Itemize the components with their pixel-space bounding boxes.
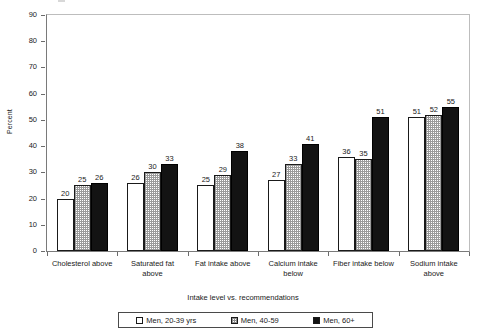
legend-item-2[interactable]: Men, 60+: [313, 316, 354, 325]
bar[interactable]: [338, 157, 355, 251]
y-axis-title: Percent: [6, 92, 13, 152]
x-tick-mark: [399, 252, 400, 256]
x-category-line: Sodium intake: [393, 259, 475, 269]
bar-chart: Percent 0102030405060708090 202526263033…: [0, 0, 486, 336]
x-category-label: Sodium intakeabove: [393, 259, 475, 279]
y-tick-mark: [41, 251, 45, 252]
legend-label-2: Men, 60+: [323, 316, 354, 325]
bar-value-label: 51: [376, 107, 384, 116]
bar[interactable]: [268, 180, 285, 251]
bar[interactable]: [57, 199, 74, 251]
legend-swatch-icon-men-60-plus: [313, 317, 320, 324]
y-tick-mark: [41, 15, 45, 16]
bar[interactable]: [285, 164, 302, 251]
legend-label-0: Men, 20-39 yrs: [146, 316, 196, 325]
y-tick-mark: [41, 41, 45, 42]
legend-swatch-icon-men-40-59: [231, 317, 238, 324]
legend-swatch-icon-men-20-39: [136, 317, 143, 324]
bar[interactable]: [74, 185, 91, 251]
bar-group: 515255: [399, 15, 469, 251]
bar[interactable]: [231, 151, 248, 251]
bar-value-label: 30: [148, 162, 156, 171]
bar[interactable]: [372, 117, 389, 251]
x-category-line: below: [252, 269, 334, 279]
bar-value-label: 41: [306, 134, 314, 143]
legend: Men, 20-39 yrs Men, 40-59 Men, 60+: [118, 312, 373, 328]
x-category-line: above: [393, 269, 475, 279]
legend-label-1: Men, 40-59: [241, 316, 279, 325]
y-tick-mark: [41, 120, 45, 121]
x-category-line: above: [111, 269, 193, 279]
y-tick-label: 40: [29, 141, 37, 150]
legend-item-1[interactable]: Men, 40-59: [231, 316, 279, 325]
bar-value-label: 27: [272, 170, 280, 179]
y-tick-mark: [41, 146, 45, 147]
bar[interactable]: [408, 117, 425, 251]
bar-value-label: 55: [447, 97, 455, 106]
y-tick-label: 30: [29, 167, 37, 176]
y-tick-mark: [41, 225, 45, 226]
bar-group: 263033: [117, 15, 187, 251]
bar[interactable]: [442, 107, 459, 251]
y-tick-label: 20: [29, 194, 37, 203]
bar-value-label: 26: [95, 173, 103, 182]
x-tick-mark: [188, 252, 189, 256]
y-tick-mark: [41, 199, 45, 200]
y-tick-label: 50: [29, 115, 37, 124]
bar[interactable]: [127, 183, 144, 251]
y-tick-label: 10: [29, 220, 37, 229]
y-tick-mark: [41, 94, 45, 95]
bar-value-label: 52: [430, 105, 438, 114]
bar-group: 273341: [258, 15, 328, 251]
bar-groups: 202526263033252938273341363551515255: [47, 15, 469, 251]
bar-value-label: 35: [359, 149, 367, 158]
y-tick-label: 80: [29, 36, 37, 45]
bar-value-label: 51: [413, 107, 421, 116]
bar-value-label: 36: [342, 147, 350, 156]
x-tick-mark: [328, 252, 329, 256]
bar[interactable]: [91, 183, 108, 251]
bar-value-label: 33: [289, 154, 297, 163]
bar-value-label: 26: [131, 173, 139, 182]
bar-group: 363551: [328, 15, 398, 251]
y-tick-label: 0: [33, 246, 37, 255]
x-tick-mark: [117, 252, 118, 256]
top-crop-artifact: [58, 0, 65, 2]
y-tick-mark: [41, 67, 45, 68]
y-tick-label: 70: [29, 62, 37, 71]
bar-group: 202526: [47, 15, 117, 251]
bar[interactable]: [161, 164, 178, 251]
legend-item-0[interactable]: Men, 20-39 yrs: [136, 316, 196, 325]
bar[interactable]: [197, 185, 214, 251]
bar-value-label: 20: [61, 189, 69, 198]
x-tick-mark: [47, 252, 48, 256]
bar-value-label: 29: [219, 165, 227, 174]
bar-value-label: 38: [236, 141, 244, 150]
bar[interactable]: [302, 144, 319, 252]
y-tick-mark: [41, 172, 45, 173]
x-axis-title: Intake level vs. recommendations: [0, 293, 486, 302]
bar-group: 252938: [188, 15, 258, 251]
y-tick-label: 60: [29, 89, 37, 98]
y-tick-label: 90: [29, 10, 37, 19]
bar[interactable]: [144, 172, 161, 251]
bar[interactable]: [355, 159, 372, 251]
bar-value-label: 33: [165, 154, 173, 163]
bar-value-label: 25: [202, 175, 210, 184]
bar-value-label: 25: [78, 175, 86, 184]
bar[interactable]: [425, 115, 442, 251]
x-tick-mark: [469, 252, 470, 256]
bar[interactable]: [214, 175, 231, 251]
x-tick-mark: [258, 252, 259, 256]
